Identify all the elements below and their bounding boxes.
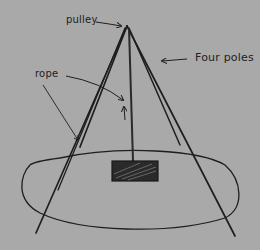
upward-arrow <box>124 107 125 120</box>
four-poles-label: Four poles <box>195 51 254 64</box>
pulley-arrow <box>96 22 121 26</box>
rope-arrow-to-rope <box>66 76 123 100</box>
weight-block <box>112 161 158 181</box>
pulley-label: pulley <box>66 14 98 25</box>
pole-left-inner <box>80 26 127 147</box>
pole-right-inner <box>129 28 180 145</box>
rope-label: rope <box>35 68 58 79</box>
sketch-canvas <box>0 0 260 250</box>
rope-arrow-to-pole <box>43 85 78 140</box>
poles-arrow <box>162 59 187 61</box>
rope-line <box>129 28 133 161</box>
